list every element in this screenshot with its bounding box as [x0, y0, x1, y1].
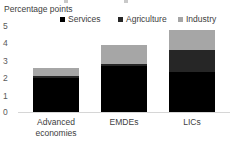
x-label-lics: LICs [154, 117, 230, 128]
plot-area: 5 4 3 2 1 0 [0, 22, 233, 116]
x-label-advanced-economies: Advanced economies [18, 117, 94, 138]
y-tick-0: 0 [3, 108, 17, 117]
y-tick-5: 5 [3, 22, 17, 31]
stacked-bar-chart: Percentage points Services Agriculture I… [0, 0, 233, 142]
cropped-legend-swatch-2 [124, 0, 128, 3]
x-label-line2: economies [18, 128, 94, 139]
bar-segment-industry [169, 30, 215, 50]
bar-segment-industry [101, 45, 147, 65]
y-tick-4: 4 [3, 39, 17, 48]
bars-container [18, 22, 230, 112]
y-tick-1: 1 [3, 92, 17, 101]
bar-segment-agriculture [169, 50, 215, 72]
bar-segment-agriculture [101, 64, 147, 66]
x-label-emdes: EMDEs [86, 117, 162, 128]
cropped-legend-swatch-1 [64, 0, 68, 3]
y-axis-title: Percentage points [4, 5, 73, 14]
x-axis-baseline [18, 112, 230, 113]
bar-segment-industry [33, 68, 79, 76]
x-label-line1: LICs [154, 117, 230, 128]
bar-segment-services [169, 72, 215, 113]
x-axis-labels: Advanced economies EMDEs LICs [18, 117, 230, 142]
x-label-line1: Advanced [18, 117, 94, 128]
bar-segment-services [33, 78, 79, 112]
bar-segment-services [101, 66, 147, 112]
y-tick-3: 3 [3, 57, 17, 66]
y-tick-2: 2 [3, 74, 17, 83]
bar-segment-agriculture [33, 76, 79, 78]
x-label-line1: EMDEs [86, 117, 162, 128]
